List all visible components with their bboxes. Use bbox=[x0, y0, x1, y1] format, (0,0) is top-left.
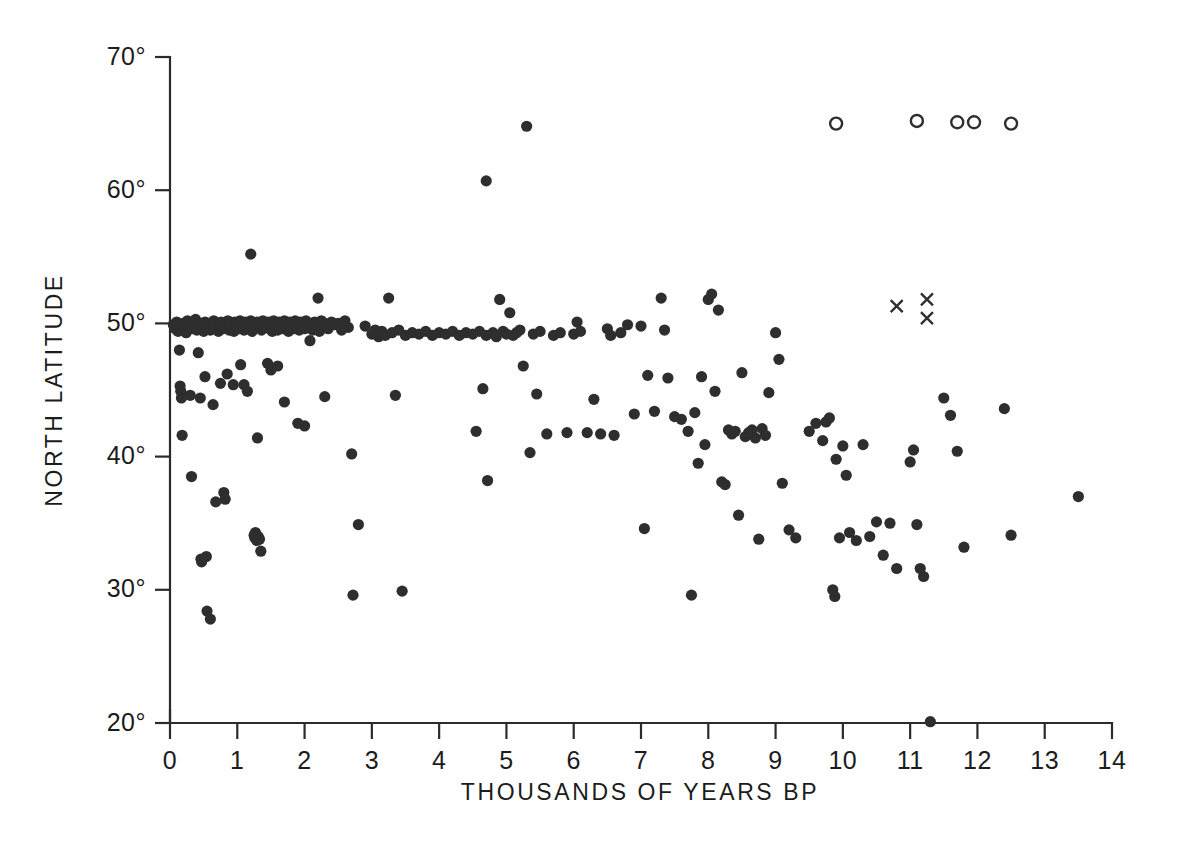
axis-spine bbox=[170, 57, 1112, 723]
data-point-filled bbox=[353, 519, 364, 530]
data-point-filled bbox=[514, 324, 525, 335]
data-point-filled bbox=[595, 428, 606, 439]
data-point-open bbox=[1005, 118, 1017, 130]
data-point-filled bbox=[878, 550, 889, 561]
data-point-filled bbox=[925, 716, 936, 727]
data-point-filled bbox=[220, 494, 231, 505]
x-axis-title: THOUSANDS OF YEARS BP bbox=[461, 779, 819, 805]
y-axis-ticks: 20°30°40°50°60°70° bbox=[107, 42, 170, 736]
data-point-filled bbox=[753, 534, 764, 545]
x-tick-label: 13 bbox=[1030, 746, 1059, 774]
data-point-filled bbox=[730, 426, 741, 437]
axes bbox=[170, 57, 1112, 723]
data-point-filled bbox=[1073, 491, 1084, 502]
data-point-filled bbox=[186, 471, 197, 482]
data-point-filled bbox=[635, 320, 646, 331]
data-point-filled bbox=[177, 430, 188, 441]
data-point-filled bbox=[676, 414, 687, 425]
data-point-filled bbox=[242, 386, 253, 397]
data-point-filled bbox=[521, 121, 532, 132]
data-point-filled bbox=[841, 470, 852, 481]
data-point-filled bbox=[185, 390, 196, 401]
data-point-filled bbox=[245, 249, 256, 260]
data-point-filled bbox=[829, 591, 840, 602]
data-point-filled bbox=[494, 294, 505, 305]
y-tick-label: 70° bbox=[107, 42, 146, 70]
data-point-cross bbox=[921, 293, 933, 305]
scatter-plot-figure: 20°30°40°50°60°70° 01234567891011121314 … bbox=[0, 0, 1179, 852]
data-point-filled bbox=[272, 360, 283, 371]
data-point-filled bbox=[945, 410, 956, 421]
data-point-filled bbox=[639, 523, 650, 534]
y-tick-label: 60° bbox=[107, 175, 146, 203]
data-point-filled bbox=[938, 392, 949, 403]
data-point-filled bbox=[696, 371, 707, 382]
data-point-filled bbox=[541, 428, 552, 439]
data-point-filled bbox=[534, 326, 545, 337]
data-point-filled bbox=[210, 496, 221, 507]
data-point-filled bbox=[693, 458, 704, 469]
data-point-cross bbox=[891, 300, 903, 312]
data-point-open bbox=[968, 116, 980, 128]
data-point-filled bbox=[343, 322, 354, 333]
x-tick-label: 7 bbox=[634, 746, 648, 774]
data-point-filled bbox=[235, 359, 246, 370]
x-tick-label: 11 bbox=[897, 746, 924, 774]
data-point-filled bbox=[481, 175, 492, 186]
y-tick-label: 30° bbox=[107, 574, 146, 602]
x-tick-label: 12 bbox=[963, 746, 992, 774]
data-point-filled bbox=[952, 446, 963, 457]
data-point-filled bbox=[905, 456, 916, 467]
data-point-filled bbox=[471, 426, 482, 437]
data-point-filled bbox=[195, 392, 206, 403]
data-point-filled bbox=[629, 408, 640, 419]
data-point-filled bbox=[834, 532, 845, 543]
data-point-filled bbox=[713, 304, 724, 315]
data-point-filled bbox=[174, 344, 185, 355]
data-point-filled bbox=[659, 324, 670, 335]
data-point-filled bbox=[763, 387, 774, 398]
data-point-filled bbox=[911, 519, 922, 530]
data-point-filled bbox=[706, 288, 717, 299]
data-point-filled bbox=[477, 383, 488, 394]
data-point-filled bbox=[918, 571, 929, 582]
latitude-vs-years-scatter-chart: 20°30°40°50°60°70° 01234567891011121314 … bbox=[0, 0, 1179, 852]
data-point-filled bbox=[575, 326, 586, 337]
data-point-filled bbox=[304, 335, 315, 346]
data-point-filled bbox=[720, 479, 731, 490]
data-point-filled bbox=[1005, 530, 1016, 541]
x-tick-label: 6 bbox=[567, 746, 581, 774]
data-point-filled bbox=[864, 531, 875, 542]
x-tick-label: 0 bbox=[163, 746, 177, 774]
data-point-filled bbox=[319, 391, 330, 402]
data-point-filled bbox=[656, 292, 667, 303]
data-point-filled bbox=[642, 370, 653, 381]
data-point-filled bbox=[662, 372, 673, 383]
data-point-open bbox=[911, 115, 923, 127]
data-point-filled bbox=[777, 478, 788, 489]
data-point-filled bbox=[689, 407, 700, 418]
data-point-filled bbox=[346, 448, 357, 459]
data-point-filled bbox=[770, 327, 781, 338]
x-tick-label: 3 bbox=[365, 746, 379, 774]
data-point-filled bbox=[999, 403, 1010, 414]
data-point-filled bbox=[605, 330, 616, 341]
data-point-filled bbox=[201, 551, 212, 562]
data-point-filled bbox=[207, 399, 218, 410]
data-point-filled bbox=[908, 444, 919, 455]
data-point-filled bbox=[347, 590, 358, 601]
data-point-filled bbox=[215, 378, 226, 389]
data-point-filled bbox=[683, 426, 694, 437]
data-point-filled bbox=[790, 532, 801, 543]
data-point-filled bbox=[810, 418, 821, 429]
data-point-filled bbox=[199, 371, 210, 382]
data-point-filled bbox=[222, 368, 233, 379]
data-point-filled bbox=[837, 440, 848, 451]
data-point-filled bbox=[561, 427, 572, 438]
data-point-filled bbox=[383, 292, 394, 303]
data-point-filled bbox=[649, 406, 660, 417]
y-axis-title: NORTH LATITUDE bbox=[41, 273, 67, 507]
data-points bbox=[168, 115, 1084, 727]
data-point-filled bbox=[390, 390, 401, 401]
data-point-open bbox=[951, 116, 963, 128]
